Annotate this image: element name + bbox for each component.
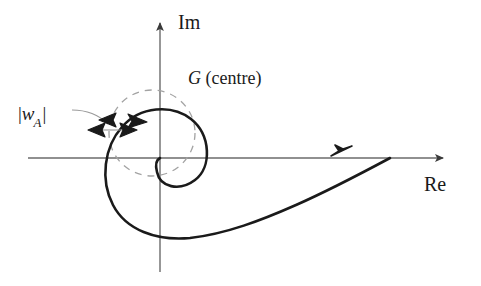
uncertainty-label-symbol: w: [22, 103, 35, 124]
nyquist-locus-curve: [105, 109, 390, 238]
real-axis-label: Re: [424, 174, 446, 194]
imaginary-axis-label: Im: [178, 12, 200, 32]
locus-direction-arrowhead-icon: [331, 145, 352, 156]
nyquist-uncertainty-figure: Im Re G (centre) |wA|: [0, 0, 481, 286]
uncertainty-arrowhead-left-icon: [88, 123, 105, 137]
figure-canvas: [0, 0, 481, 286]
uncertainty-magnitude-label: |wA|: [18, 104, 46, 127]
uncertainty-label-close-bar: |: [42, 103, 46, 124]
centre-annotation-symbol: G: [188, 68, 201, 88]
uncertainty-label-subscript: A: [34, 115, 42, 130]
centre-annotation: G (centre): [188, 69, 261, 87]
centre-annotation-text: (centre): [201, 68, 261, 88]
